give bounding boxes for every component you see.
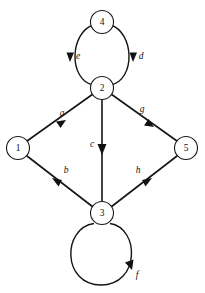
edge-label-a: a [60, 108, 65, 118]
edge-label-f: f [136, 270, 140, 280]
edge-g-path [111, 94, 177, 141]
node-4-label: 4 [100, 17, 105, 27]
edge-c-arrowhead [98, 144, 107, 155]
edge-b-arrowhead [52, 178, 62, 187]
edge-f-path [71, 224, 132, 286]
edge-e-arrowhead [67, 53, 75, 63]
edge-f-arrowhead [125, 260, 134, 271]
edge-d-arrowhead [130, 53, 138, 63]
node-5-label: 5 [184, 143, 189, 153]
directed-graph-diagram: 4 2 1 5 3 a b c d [0, 0, 205, 293]
node-1-label: 1 [16, 143, 21, 153]
node-3[interactable]: 3 [91, 202, 114, 225]
node-2-label: 2 [100, 83, 105, 93]
edge-a-arrowhead [56, 120, 66, 128]
node-3-label: 3 [100, 208, 105, 218]
edge-d-path [111, 25, 129, 85]
node-1[interactable]: 1 [7, 137, 30, 160]
edge-group [27, 25, 177, 285]
node-2[interactable]: 2 [91, 77, 114, 100]
node-5[interactable]: 5 [175, 137, 198, 160]
edge-label-d: d [139, 51, 144, 61]
edge-label-h: h [136, 165, 141, 175]
edge-h-arrowhead [142, 178, 152, 187]
edge-label-e: e [76, 51, 80, 61]
edge-label-g: g [140, 104, 145, 114]
graph-canvas: 4 2 1 5 3 a b c d [0, 0, 205, 293]
node-4[interactable]: 4 [91, 11, 114, 34]
edge-label-c: c [90, 139, 95, 149]
edge-label-b: b [64, 165, 69, 175]
